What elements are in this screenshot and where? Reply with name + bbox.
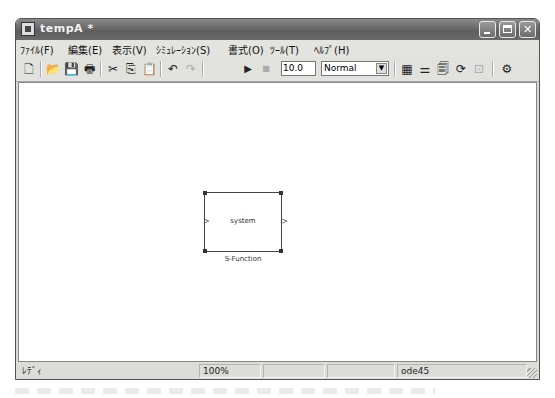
save-icon[interactable]: 💾	[63, 61, 79, 77]
status-bar: ﾚﾃﾞｨ 100% ode45	[16, 362, 539, 380]
library-browser-icon[interactable]: ▦	[399, 61, 415, 77]
resize-handle[interactable]	[279, 191, 283, 195]
start-simulation-icon[interactable]: ▶	[240, 61, 256, 77]
simulation-mode-select[interactable]: Normal ▼	[321, 61, 389, 76]
menu-format[interactable]: 書式(O)	[228, 42, 264, 57]
menu-tools[interactable]: ﾂｰﾙ(T)	[270, 42, 299, 57]
print-icon[interactable]: 🖶	[81, 61, 97, 77]
maximize-button[interactable]	[499, 21, 516, 38]
status-text: ﾚﾃﾞｨ	[18, 364, 196, 378]
menu-file[interactable]: ﾌｧｲﾙ(F)	[20, 42, 54, 57]
minimize-button[interactable]	[479, 21, 496, 38]
copy-icon[interactable]: ⎘	[123, 61, 139, 77]
stop-simulation-icon[interactable]: ■	[258, 61, 274, 77]
model-browser-icon[interactable]: ⚌	[417, 61, 433, 77]
status-cell-3	[263, 364, 325, 378]
resize-grip-icon[interactable]	[527, 368, 537, 378]
toolbar-separator	[100, 61, 102, 77]
debug-icon[interactable]: 🗐	[435, 61, 451, 77]
solver-name: ode45	[397, 364, 527, 378]
menu-view[interactable]: 表示(V)	[112, 42, 147, 57]
model-explorer-icon[interactable]: ⚙	[499, 61, 515, 77]
chevron-down-icon[interactable]: ▼	[376, 63, 387, 74]
block-label: system	[205, 217, 281, 225]
toolbar: 🗋 📂 💾 🖶 ✂ ⎘ 📋 ↶ ↷ ▶ ■ 10.0 Normal ▼ ▦ ⚌ …	[16, 57, 539, 82]
toolbar-separator	[40, 61, 42, 77]
new-model-icon[interactable]: 🗋	[21, 61, 37, 77]
model-canvas[interactable]: > > system S-Function	[18, 82, 537, 362]
status-cell-4	[327, 364, 395, 378]
close-button[interactable]: ✕	[519, 21, 536, 38]
toolbar-separator	[160, 61, 162, 77]
s-function-block[interactable]: > > system	[204, 192, 282, 252]
paste-icon[interactable]: 📋	[141, 61, 157, 77]
menu-help[interactable]: ﾍﾙﾌﾟ(H)	[314, 42, 349, 57]
menu-simulation[interactable]: ｼﾐｭﾚｰｼｮﾝ(S)	[156, 42, 210, 57]
open-icon[interactable]: 📂	[45, 61, 61, 77]
menu-edit[interactable]: 編集(E)	[68, 42, 102, 57]
build-icon[interactable]: ⊡	[471, 61, 487, 77]
block-name[interactable]: S-Function	[204, 255, 282, 263]
figure-caption-cutoff	[15, 388, 435, 394]
simulink-model-window: tempA * ✕ ﾌｧｲﾙ(F) 編集(E) 表示(V) ｼﾐｭﾚｰｼｮﾝ(S…	[15, 18, 540, 380]
simulation-mode-value: Normal	[324, 63, 357, 73]
resize-handle[interactable]	[203, 191, 207, 195]
window-title: tempA *	[40, 22, 94, 35]
title-bar[interactable]: tempA * ✕	[16, 19, 539, 40]
update-diagram-icon[interactable]: ⟳	[453, 61, 469, 77]
undo-icon[interactable]: ↶	[165, 61, 181, 77]
zoom-level: 100%	[199, 364, 261, 378]
cut-icon[interactable]: ✂	[105, 61, 121, 77]
output-port[interactable]: >	[281, 217, 288, 226]
resize-handle[interactable]	[279, 249, 283, 253]
redo-icon[interactable]: ↷	[183, 61, 199, 77]
stop-time-input[interactable]: 10.0	[281, 61, 316, 76]
resize-handle[interactable]	[203, 249, 207, 253]
toolbar-separator	[202, 61, 204, 77]
toolbar-separator	[394, 61, 396, 77]
menu-bar: ﾌｧｲﾙ(F) 編集(E) 表示(V) ｼﾐｭﾚｰｼｮﾝ(S) 書式(O) ﾂｰ…	[16, 40, 539, 58]
simulink-app-icon	[21, 22, 35, 36]
toolbar-separator	[492, 61, 494, 77]
